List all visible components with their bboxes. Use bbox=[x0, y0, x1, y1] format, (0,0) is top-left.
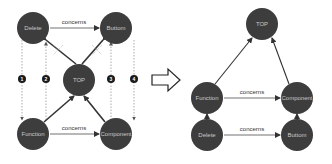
right-graph: concerns concerns TOP Function Component… bbox=[191, 8, 313, 151]
node-top[interactable]: TOP bbox=[246, 8, 278, 40]
svg-text:1: 1 bbox=[21, 76, 24, 82]
svg-text:4: 4 bbox=[133, 76, 136, 82]
node-function[interactable]: Function bbox=[191, 82, 223, 114]
badge-2: 2 bbox=[42, 75, 50, 83]
node-label: TOP bbox=[73, 77, 85, 83]
edge-label-concerns-bottom: concerns bbox=[240, 126, 264, 132]
node-delete[interactable]: Delete bbox=[191, 119, 223, 151]
svg-text:3: 3 bbox=[110, 76, 113, 82]
edge-function-top bbox=[44, 96, 74, 122]
node-component[interactable]: Component bbox=[100, 118, 132, 150]
edge-component-top bbox=[84, 96, 105, 122]
edge-buttom-top bbox=[82, 40, 103, 64]
node-component[interactable]: Component bbox=[281, 82, 313, 114]
node-delete[interactable]: Delete bbox=[17, 12, 49, 44]
node-top[interactable]: TOP bbox=[63, 64, 95, 96]
node-label: Function bbox=[21, 131, 44, 137]
badge-1: 1 bbox=[18, 75, 26, 83]
node-label: Delete bbox=[198, 132, 216, 138]
left-graph: concerns concerns Delete Buttom TOP Func… bbox=[17, 12, 138, 150]
dependency-edges-right bbox=[207, 38, 297, 120]
node-label: Function bbox=[195, 95, 218, 101]
badge-4: 4 bbox=[130, 75, 138, 83]
badge-3: 3 bbox=[107, 75, 115, 83]
node-label: Buttom bbox=[106, 25, 125, 31]
node-buttom[interactable]: Buttom bbox=[100, 12, 132, 44]
node-label: Buttom bbox=[287, 132, 306, 138]
edge-label-concerns-top: concerns bbox=[62, 19, 86, 25]
node-function[interactable]: Function bbox=[17, 118, 49, 150]
diagram-canvas: concerns concerns Delete Buttom TOP Func… bbox=[0, 0, 332, 164]
node-label: Component bbox=[100, 131, 131, 137]
svg-text:2: 2 bbox=[45, 76, 48, 82]
node-label: TOP bbox=[256, 21, 268, 27]
edge-delete-top bbox=[46, 40, 76, 64]
node-label: Component bbox=[281, 95, 312, 101]
edge-label-concerns-bottom: concerns bbox=[62, 125, 86, 131]
node-buttom[interactable]: Buttom bbox=[281, 119, 313, 151]
edge-label-concerns-top: concerns bbox=[240, 89, 264, 95]
node-label: Delete bbox=[24, 25, 42, 31]
edge-function-top bbox=[215, 38, 252, 84]
right-double-arrow-icon bbox=[152, 69, 180, 91]
edge-component-top bbox=[272, 38, 289, 84]
